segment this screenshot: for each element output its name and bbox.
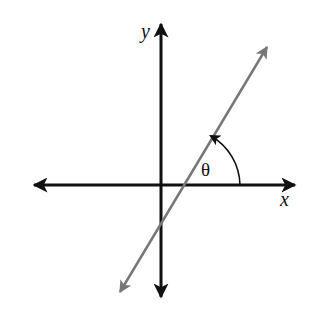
angle-theta-label: θ	[201, 159, 210, 180]
angle-arc	[211, 136, 240, 185]
y-axis-label: y	[139, 20, 150, 43]
diagram-canvas: y x θ	[0, 0, 313, 313]
sloped-line	[120, 47, 267, 292]
x-axis-label: x	[279, 188, 289, 210]
